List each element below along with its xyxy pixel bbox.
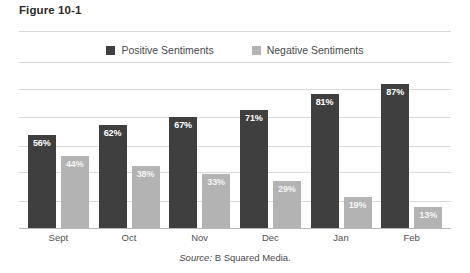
x-tick-label: Sept [23,232,94,246]
plot-area: 56%44%62%38%67%33%71%29%81%19%87%13% [19,62,451,229]
bar-value-label: 19% [349,200,367,210]
bar-group: 62%38% [94,62,165,229]
bar-positive[interactable]: 87% [381,84,409,229]
bar-negative[interactable]: 29% [273,181,301,229]
bar-value-label: 44% [66,159,84,169]
legend-label-positive: Positive Sentiments [121,44,213,56]
bar-group: 87%13% [376,62,447,229]
bar-positive[interactable]: 62% [99,125,127,229]
legend-swatch-positive-icon [106,46,115,55]
x-tick-label: Dec [235,232,306,246]
x-tick-label: Oct [94,232,165,246]
x-axis-line [19,228,451,229]
bar-value-label: 38% [137,169,155,179]
bar-value-label: 81% [316,97,334,107]
bar-group: 81%19% [306,62,377,229]
bar-value-label: 29% [278,184,296,194]
bar-groups: 56%44%62%38%67%33%71%29%81%19%87%13% [19,62,451,229]
x-tick-label: Jan [306,232,377,246]
bar-negative[interactable]: 19% [344,197,372,229]
bar-negative[interactable]: 38% [132,166,160,229]
figure-container: Figure 10-1 Positive Sentiments Negative… [0,0,470,273]
bar-value-label: 71% [245,113,263,123]
source-keyword: Source: [179,252,212,263]
source-caption: Source: B Squared Media. [0,252,470,263]
title-divider [19,31,451,32]
legend-item-negative[interactable]: Negative Sentiments [252,44,364,56]
x-tick-label: Feb [376,232,447,246]
bar-negative[interactable]: 44% [61,156,89,229]
figure-title: Figure 10-1 [19,4,81,16]
x-tick-label: Nov [164,232,235,246]
bar-value-label: 13% [419,210,437,220]
bar-group: 56%44% [23,62,94,229]
bar-value-label: 87% [386,87,404,97]
bar-value-label: 67% [174,120,192,130]
bar-value-label: 62% [104,128,122,138]
source-text: B Squared Media. [212,252,291,263]
legend-item-positive[interactable]: Positive Sentiments [106,44,213,56]
bar-positive[interactable]: 71% [240,110,268,229]
bar-group: 71%29% [235,62,306,229]
chart-legend: Positive Sentiments Negative Sentiments [19,42,451,58]
bar-negative[interactable]: 13% [414,207,442,229]
bar-negative[interactable]: 33% [202,174,230,229]
x-axis-tick-labels: SeptOctNovDecJanFeb [19,232,451,246]
bar-positive[interactable]: 67% [169,117,197,229]
bar-value-label: 33% [207,177,225,187]
bar-positive[interactable]: 56% [28,135,56,229]
legend-swatch-negative-icon [252,46,261,55]
bar-value-label: 56% [33,138,51,148]
legend-label-negative: Negative Sentiments [267,44,364,56]
bar-positive[interactable]: 81% [311,94,339,229]
bar-group: 67%33% [164,62,235,229]
